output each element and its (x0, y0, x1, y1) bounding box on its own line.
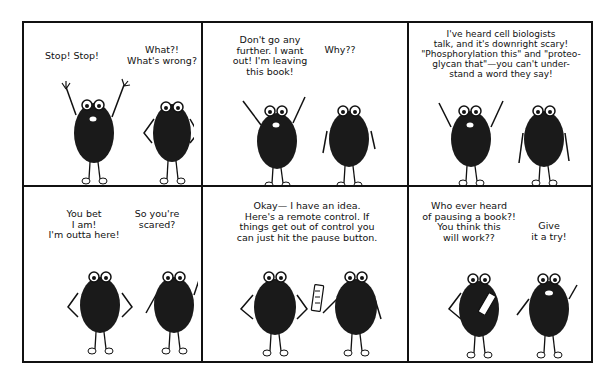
fingerprint-character-right (146, 272, 198, 354)
fingerprint-character-left (439, 101, 503, 185)
panel-1: Stop! Stop! What?! What's wrong? (24, 23, 201, 185)
fingerprint-character-left (68, 272, 132, 354)
fingerprint-characters (48, 253, 198, 363)
panel-2: Don't go any further. I want out! I'm le… (203, 23, 407, 185)
panel-4: You bet I am! I'm outta here! So you're … (24, 187, 201, 363)
fingerprint-character-right (323, 106, 375, 185)
fingerprint-character-left (241, 272, 307, 356)
panel-3: I've heard cell biologists talk, and it'… (409, 23, 593, 185)
speech-right: Give it a try! (519, 221, 579, 242)
fingerprint-characters (223, 75, 393, 185)
panel-6: Who ever heard of pausing a book?! You t… (409, 187, 593, 363)
speech-top: I've heard cell biologists talk, and it'… (413, 29, 589, 79)
panel-5: Okay— I have an idea. Here's a remote co… (203, 187, 407, 363)
comic-strip: Stop! Stop! What?! What's wrong? (22, 21, 593, 363)
fingerprint-character-right (517, 274, 577, 358)
speech-left: Who ever heard of pausing a book?! You t… (419, 201, 519, 243)
fingerprint-characters (219, 255, 399, 363)
fingerprint-characters (44, 67, 194, 185)
speech-left: You bet I am! I'm outta here! (44, 209, 124, 241)
fingerprint-character-right (519, 106, 569, 185)
fingerprint-character-right (323, 272, 381, 356)
fingerprint-character-left (449, 274, 499, 358)
speech-right: Why?? (315, 45, 365, 56)
speech-left: Don't go any further. I want out! I'm le… (225, 35, 315, 77)
fingerprint-characters (419, 83, 589, 185)
fingerprint-character-left (62, 79, 130, 184)
speech-top: Okay— I have an idea. Here's a remote co… (217, 201, 397, 243)
fingerprint-characters (419, 257, 589, 363)
fingerprint-character-left (243, 97, 305, 185)
speech-left: Stop! Stop! (32, 51, 112, 62)
speech-right: What?! What's wrong? (122, 45, 201, 66)
speech-right: So you're scared? (122, 209, 192, 230)
fingerprint-character-right (144, 102, 194, 184)
remote-control-icon (311, 285, 324, 312)
